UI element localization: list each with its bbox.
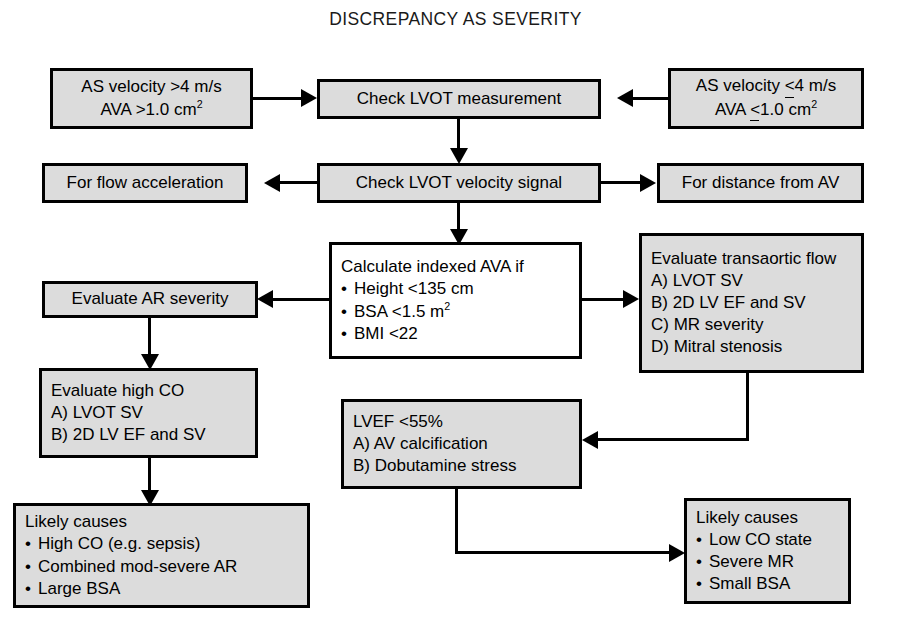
node-check-lvot-measurement[interactable]: Check LVOT measurement (317, 79, 601, 119)
node-evaluate-ar-severity[interactable]: Evaluate AR severity (42, 281, 258, 318)
likely-causes-high-item: •High CO (e.g. sepsis) (25, 533, 298, 555)
arrowhead-right-to-distance-from-av (640, 174, 656, 192)
arrowhead-left-to-ar-severity (257, 290, 273, 308)
arrowhead-right-to-transaortic-flow (623, 290, 639, 308)
evaluate-transaortic-flow-item: B) 2D LV EF and SV (651, 292, 852, 314)
evaluate-transaortic-flow-item: D) Mitral stenosis (651, 336, 852, 358)
connector-calculate-ava-to-ar-severity (273, 298, 329, 301)
superscript-2: 2 (444, 300, 450, 312)
less-than-or-equal-icon: < (750, 99, 760, 122)
evaluate-high-co-item: A) LVOT SV (51, 402, 246, 424)
bullet-icon: • (341, 301, 354, 323)
check-lvot-velocity-signal-label: Check LVOT velocity signal (329, 172, 589, 194)
as-velocity-low-line2: AVA <1.0 cm2 (680, 99, 852, 122)
bullet-icon: • (25, 578, 38, 600)
bullet-icon: • (696, 529, 709, 551)
calculate-indexed-ava-item: •Height <135 cm (341, 278, 570, 300)
node-for-distance-from-av[interactable]: For distance from AV (657, 163, 864, 203)
arrowhead-left-to-lvef (582, 431, 598, 449)
arrowhead-left-to-flow-acceleration (264, 174, 280, 192)
as-velocity-low-line1: AS velocity <4 m/s (680, 75, 852, 98)
connector-velocity-signal-to-flow-acceleration (280, 181, 317, 184)
connector-measurement-to-velocity-signal (457, 119, 460, 150)
likely-causes-low-item: •Low CO state (696, 529, 839, 551)
likely-causes-low-heading: Likely causes (696, 507, 839, 529)
lvef-low-item: B) Dobutamine stress (353, 455, 570, 477)
evaluate-high-co-item: B) 2D LV EF and SV (51, 424, 246, 446)
connector-lvef-down (455, 489, 458, 554)
lvef-low-item: A) AV calcification (353, 433, 570, 455)
evaluate-high-co-heading: Evaluate high CO (51, 380, 246, 402)
as-velocity-high-line1: AS velocity >4 m/s (62, 76, 241, 98)
flowchart-canvas: DISCREPANCY AS SEVERITY AS velocity >4 m… (0, 0, 911, 621)
evaluate-ar-severity-label: Evaluate AR severity (54, 288, 246, 310)
for-flow-acceleration-label: For flow acceleration (54, 172, 236, 194)
node-evaluate-transaortic-flow[interactable]: Evaluate transaortic flow A) LVOT SV B) … (639, 233, 864, 373)
less-than-or-equal-icon: < (785, 75, 795, 98)
arrowhead-right-to-check-measurement (301, 89, 317, 107)
connector-as-high-to-check-measurement (253, 97, 301, 100)
node-for-flow-acceleration[interactable]: For flow acceleration (42, 163, 248, 203)
calculate-indexed-ava-item: •BSA <1.5 m2 (341, 301, 570, 323)
likely-causes-low-item: •Severe MR (696, 551, 839, 573)
connector-transaortic-flow-to-lvef (598, 438, 749, 441)
evaluate-transaortic-flow-item: A) LVOT SV (651, 270, 852, 292)
node-as-velocity-high[interactable]: AS velocity >4 m/s AVA >1.0 cm2 (50, 68, 253, 129)
evaluate-transaortic-flow-heading: Evaluate transaortic flow (651, 248, 852, 270)
likely-causes-high-item: •Combined mod-severe AR (25, 556, 298, 578)
bullet-icon: • (341, 323, 354, 345)
calculate-indexed-ava-item: •BMI <22 (341, 323, 570, 345)
superscript-2: 2 (811, 98, 817, 110)
node-check-lvot-velocity-signal[interactable]: Check LVOT velocity signal (317, 163, 601, 203)
node-as-velocity-low[interactable]: AS velocity <4 m/s AVA <1.0 cm2 (668, 68, 864, 129)
bullet-icon: • (696, 573, 709, 595)
node-lvef-low[interactable]: LVEF <55% A) AV calcification B) Dobutam… (341, 399, 582, 489)
calculate-indexed-ava-heading: Calculate indexed AVA if (341, 256, 570, 278)
superscript-2: 2 (197, 98, 203, 110)
node-likely-causes-low[interactable]: Likely causes •Low CO state •Severe MR •… (684, 498, 851, 604)
page-title: DISCREPANCY AS SEVERITY (0, 9, 911, 30)
connector-calculate-ava-to-transaortic-flow (582, 298, 623, 301)
for-distance-from-av-label: For distance from AV (669, 172, 852, 194)
connector-velocity-signal-to-distance-from-av (601, 181, 640, 184)
check-lvot-measurement-label: Check LVOT measurement (329, 88, 589, 110)
arrowhead-down-to-velocity-signal (450, 148, 468, 164)
connector-transaortic-flow-down (746, 373, 749, 441)
lvef-low-heading: LVEF <55% (353, 411, 570, 433)
arrowhead-right-to-likely-causes-low (669, 544, 685, 562)
node-calculate-indexed-ava[interactable]: Calculate indexed AVA if •Height <135 cm… (329, 242, 582, 359)
likely-causes-low-item: •Small BSA (696, 573, 839, 595)
bullet-icon: • (341, 278, 354, 300)
connector-velocity-signal-to-calculate-ava (457, 203, 460, 231)
as-velocity-high-line2: AVA >1.0 cm2 (62, 99, 241, 121)
connector-high-co-to-likely-causes-high (148, 458, 151, 492)
arrowhead-left-to-check-measurement (617, 89, 633, 107)
node-likely-causes-high[interactable]: Likely causes •High CO (e.g. sepsis) •Co… (13, 503, 310, 608)
bullet-icon: • (696, 551, 709, 573)
likely-causes-high-item: •Large BSA (25, 578, 298, 600)
node-evaluate-high-co[interactable]: Evaluate high CO A) LVOT SV B) 2D LV EF … (39, 368, 258, 458)
likely-causes-high-heading: Likely causes (25, 511, 298, 533)
bullet-icon: • (25, 556, 38, 578)
evaluate-transaortic-flow-item: C) MR severity (651, 314, 852, 336)
connector-ar-severity-to-high-co (148, 318, 151, 356)
bullet-icon: • (25, 533, 38, 555)
connector-lvef-to-likely-causes-low (455, 551, 669, 554)
